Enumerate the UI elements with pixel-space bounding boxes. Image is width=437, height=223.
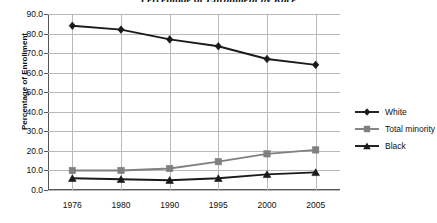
data-point-marker <box>118 167 124 173</box>
data-point-marker <box>166 165 172 171</box>
data-point-marker <box>118 26 124 34</box>
series-layer <box>48 14 340 190</box>
series-line-white <box>72 26 315 65</box>
chart-container: Percentage of Enrollment by Race Percent… <box>0 0 437 223</box>
y-tick-label: 70.0 <box>26 48 43 58</box>
legend-label: Black <box>385 141 406 151</box>
data-point-marker <box>166 36 172 44</box>
y-tick-mark <box>44 190 48 191</box>
y-tick-label: 20.0 <box>26 146 43 156</box>
x-tick-label: 1990 <box>160 200 179 210</box>
x-tick-label: 2000 <box>258 200 277 210</box>
data-point-marker <box>215 158 221 164</box>
legend-label: Total minority <box>385 124 435 134</box>
x-tick-label: 2005 <box>306 200 325 210</box>
legend-item-total-minority[interactable]: Total minority <box>355 120 435 137</box>
series-line-black <box>72 172 315 180</box>
chart-legend: White Total minority Black <box>355 103 435 154</box>
y-tick-label: 0.0 <box>31 185 43 195</box>
y-tick-label: 60.0 <box>26 68 43 78</box>
x-tick-label: 1995 <box>209 200 228 210</box>
y-tick-label: 30.0 <box>26 126 43 136</box>
diamond-marker-icon <box>355 106 379 118</box>
chart-title: Percentage of Enrollment by Race <box>0 0 437 2</box>
legend-item-white[interactable]: White <box>355 103 435 120</box>
data-point-marker <box>264 55 270 63</box>
y-tick-label: 80.0 <box>26 29 43 39</box>
data-point-marker <box>69 22 75 30</box>
data-point-marker <box>264 151 270 157</box>
x-tick-label: 1976 <box>63 200 82 210</box>
y-tick-label: 90.0 <box>26 9 43 19</box>
gridline-horizontal <box>48 190 340 191</box>
data-point-marker <box>69 167 75 173</box>
series-line-total-minority <box>72 150 315 171</box>
legend-label: White <box>385 107 407 117</box>
plot-area: 90.080.070.060.050.040.030.020.010.00.0 … <box>48 14 340 190</box>
square-marker-icon <box>355 123 379 135</box>
data-point-marker <box>312 61 318 69</box>
x-tick-label: 1980 <box>112 200 131 210</box>
data-point-marker <box>312 147 318 153</box>
triangle-marker-icon <box>355 140 379 152</box>
legend-item-black[interactable]: Black <box>355 137 435 154</box>
y-tick-label: 50.0 <box>26 87 43 97</box>
data-point-marker <box>215 42 221 50</box>
y-tick-label: 10.0 <box>26 165 43 175</box>
y-tick-label: 40.0 <box>26 107 43 117</box>
